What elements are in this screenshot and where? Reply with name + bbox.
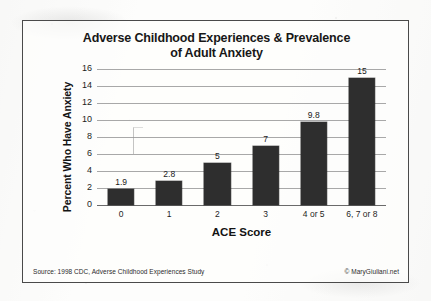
- plot-wrapper: Percent Who Have Anxiety 0246810121416 1…: [75, 69, 386, 244]
- bar-group: 73: [242, 69, 290, 205]
- bar: [108, 189, 134, 205]
- y-axis-tick-label: 2: [70, 182, 92, 192]
- chart-title: Adverse Childhood Experiences & Prevalen…: [23, 31, 410, 61]
- y-axis-tick-label: 16: [70, 63, 92, 73]
- bar-value-label: 7: [263, 134, 268, 144]
- bar-group: 52: [193, 69, 241, 205]
- y-axis-tick-label: 10: [70, 114, 92, 124]
- y-axis-tick-label: 8: [70, 131, 92, 141]
- x-axis-tick-label: 4 or 5: [303, 209, 325, 219]
- chart-frame: Adverse Childhood Experiences & Prevalen…: [22, 20, 409, 283]
- x-axis-title: ACE Score: [97, 226, 386, 238]
- footer-copyright-text: © MaryGiuliani.net: [345, 268, 399, 275]
- y-axis-tick-label: 6: [70, 148, 92, 158]
- bar-value-label: 9.8: [308, 110, 320, 120]
- bar: [156, 181, 182, 205]
- x-axis-tick-label: 1: [167, 209, 172, 219]
- footer-source-text: Source: 1998 CDC, Adverse Childhood Expe…: [33, 268, 204, 275]
- scanned-page-background: Adverse Childhood Experiences & Prevalen…: [0, 0, 431, 301]
- bar-group: 156, 7 or 8: [338, 69, 386, 205]
- y-axis-tick-label: 14: [70, 80, 92, 90]
- plot-area: 0246810121416 1.902.8152739.84 or 5156, …: [97, 69, 386, 206]
- y-axis-tick-label: 12: [70, 97, 92, 107]
- x-axis-tick-label: 3: [263, 209, 268, 219]
- chart-title-line-1: Adverse Childhood Experiences & Prevalen…: [23, 31, 410, 46]
- bar-group: 9.84 or 5: [290, 69, 338, 205]
- bar-value-label: 1.9: [115, 177, 127, 187]
- x-axis-tick-label: 0: [119, 209, 124, 219]
- y-axis-tick-label: 0: [70, 199, 92, 209]
- bar: [349, 78, 375, 206]
- bar: [204, 163, 230, 206]
- bar-value-label: 5: [215, 151, 220, 161]
- y-axis-tick-label: 4: [70, 165, 92, 175]
- bar-group: 2.81: [145, 69, 193, 205]
- bars-group: 1.902.8152739.84 or 5156, 7 or 8: [97, 69, 386, 205]
- bar: [252, 146, 278, 206]
- bar-value-label: 2.8: [163, 169, 175, 179]
- x-axis-tick-label: 2: [215, 209, 220, 219]
- x-axis-tick-label: 6, 7 or 8: [346, 209, 377, 219]
- bar: [301, 122, 327, 205]
- chart-title-line-2: of Adult Anxiety: [23, 46, 410, 61]
- bar-value-label: 15: [357, 66, 366, 76]
- bar-group: 1.90: [97, 69, 145, 205]
